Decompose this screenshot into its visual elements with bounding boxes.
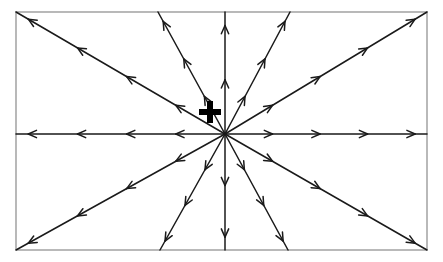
ray-northeast-steep-arrowhead xyxy=(284,21,285,30)
ray-northeast-steep-arrowhead xyxy=(244,96,245,105)
ray-southeast-shallow-arrowhead xyxy=(406,242,415,243)
vector-field-canvas: + xyxy=(0,0,443,262)
ray-southeast-shallow-arrowhead xyxy=(311,188,320,189)
ray-southeast-shallow-arrowhead xyxy=(359,215,368,216)
ray-northwest-shallow-arrowhead xyxy=(77,48,86,49)
ray-southwest-steep-arrowhead xyxy=(205,161,206,170)
ray-southwest-steep-arrowhead xyxy=(185,196,186,205)
plus-sign-vertical-bar xyxy=(207,101,213,123)
ray-northwest-shallow-arrowhead xyxy=(127,77,136,78)
ray-northwest-shallow-arrowhead xyxy=(176,105,185,106)
ray-southeast-shallow-arrowhead xyxy=(264,160,273,161)
ray-northeast-steep-arrowhead xyxy=(264,59,265,68)
field-diagram: + xyxy=(0,0,443,262)
ray-southwest-steep-arrowhead xyxy=(165,232,166,241)
ray-northwest-shallow-arrowhead xyxy=(28,19,37,20)
